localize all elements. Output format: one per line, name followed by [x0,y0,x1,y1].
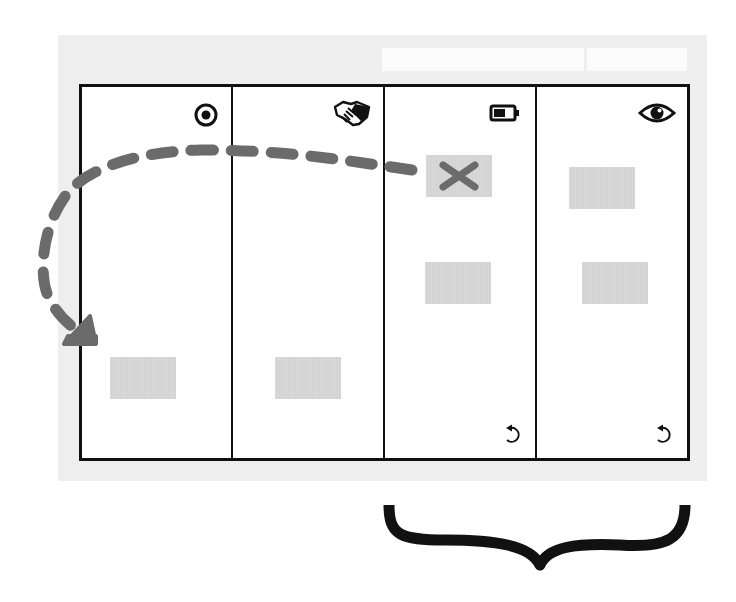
card[interactable] [569,167,635,209]
header-bar-wide [382,48,584,71]
eye-icon [637,101,677,125]
card[interactable] [425,262,491,304]
column-2 [233,87,385,458]
column-1 [82,87,233,458]
kanban-board [79,84,690,461]
column-4 [537,87,687,458]
reset-icon[interactable] [503,423,523,445]
remove-x-icon [426,155,492,197]
card[interactable] [275,357,341,399]
battery-icon [489,103,521,123]
header-bar-narrow [587,48,687,71]
column-3 [385,87,537,458]
reset-icon[interactable] [654,423,674,445]
handshake-icon [333,99,371,127]
card[interactable] [582,262,648,304]
target-icon [194,103,218,127]
card[interactable] [110,357,176,399]
removed-card[interactable] [426,155,492,197]
